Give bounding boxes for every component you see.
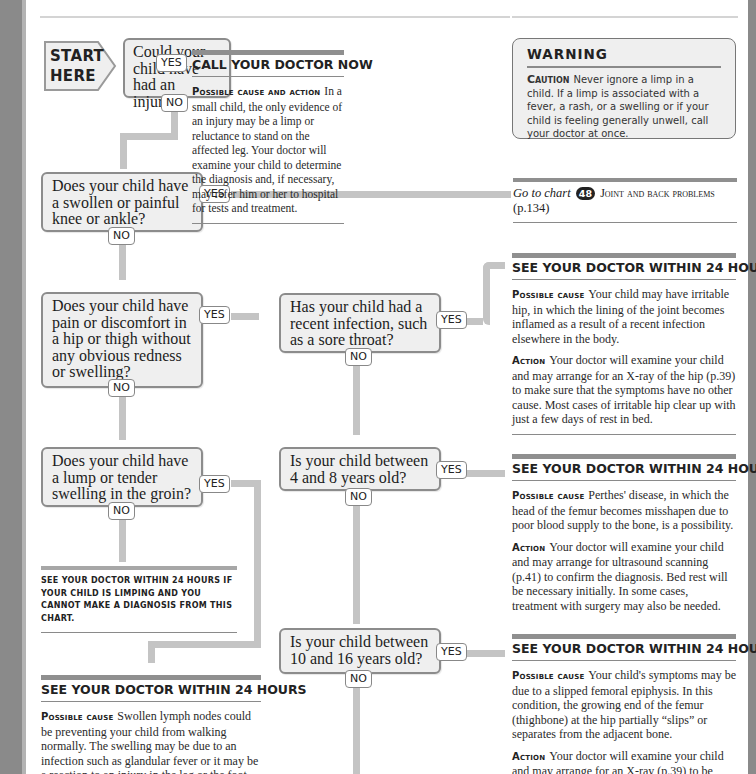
- yes-button-injury[interactable]: YES: [156, 54, 187, 72]
- goto-bar: [513, 178, 737, 182]
- result-cause: Possible causeYour child's symptoms may …: [512, 668, 736, 742]
- result-cause: Possible causeSwollen lymph nodes could …: [41, 709, 261, 774]
- yes-button-groin-lump[interactable]: YES: [199, 475, 230, 493]
- page-edge-left: [0, 0, 26, 774]
- no-button-groin-lump[interactable]: NO: [108, 502, 135, 520]
- warning-body: CautionNever ignore a limp in a child. I…: [527, 73, 721, 141]
- warning-title: WARNING: [527, 45, 721, 68]
- question-age-4-8: Is your child between 4 and 8 years old?: [279, 447, 441, 491]
- chart-title: Joint and back problems: [600, 186, 715, 200]
- result-bar: [192, 50, 344, 55]
- no-button-age-10-16[interactable]: NO: [345, 670, 372, 688]
- yes-button-age-4-8[interactable]: YES: [436, 461, 467, 479]
- question-text: Is your child between 4 and 8 years old?: [290, 452, 428, 486]
- action-label: Action: [512, 542, 545, 553]
- action-label: Action: [512, 751, 545, 762]
- question-recent-infection: Has your child had a recent infection, s…: [279, 293, 441, 353]
- top-divider: [40, 16, 510, 18]
- result-end-rule: [192, 223, 344, 224]
- page-edge-right: [748, 0, 756, 774]
- result-cause: Possible causePerthes' disease, in which…: [512, 488, 736, 533]
- goto-prefix: Go to chart: [513, 186, 571, 200]
- question-text: Is your child between 10 and 16 years ol…: [290, 633, 428, 667]
- result-label: Possible cause and action: [192, 86, 320, 97]
- result-paragraph: Possible cause and actionIn a small chil…: [192, 84, 344, 216]
- question-groin-lump: Does your child have a lump or tender sw…: [41, 447, 203, 507]
- yes-button-recent-infection[interactable]: YES: [436, 311, 467, 329]
- result-action: ActionYour doctor will examine your chil…: [512, 353, 736, 427]
- cause-label: Possible cause: [512, 289, 584, 300]
- result-heading: SEE YOUR DOCTOR WITHIN 24 HOURS: [512, 260, 736, 280]
- result-slipped-femoral-epiphysis: SEE YOUR DOCTOR WITHIN 24 HOURS Possible…: [512, 634, 736, 774]
- chart-number-badge: 48: [576, 187, 595, 200]
- action-label: Action: [512, 355, 545, 366]
- result-cause: Possible causeYour child may have irrita…: [512, 287, 736, 346]
- result-heading: SEE YOUR DOCTOR WITHIN 24 HOURS: [512, 461, 736, 481]
- start-here-label: STARTHERE: [50, 46, 104, 86]
- yes-button-hip-pain[interactable]: YES: [199, 306, 230, 324]
- warning-box: WARNING CautionNever ignore a limp in a …: [512, 38, 736, 139]
- cause-label: Possible cause: [512, 490, 584, 501]
- note-text: See your doctor within 24 hours if your …: [41, 575, 237, 625]
- cause-label: Possible cause: [41, 711, 113, 722]
- no-button-swollen-knee[interactable]: NO: [108, 227, 135, 245]
- yes-button-age-10-16[interactable]: YES: [436, 643, 467, 661]
- warning-label: Caution: [527, 73, 569, 86]
- result-perthes: SEE YOUR DOCTOR WITHIN 24 HOURS Possible…: [512, 454, 736, 620]
- result-irritable-hip: SEE YOUR DOCTOR WITHIN 24 HOURS Possible…: [512, 253, 736, 435]
- no-button-recent-infection[interactable]: NO: [345, 348, 372, 366]
- goto-end-rule: [513, 222, 737, 223]
- question-hip-pain: Does your child have pain or discomfort …: [41, 292, 203, 388]
- no-diagnosis-note: See your doctor within 24 hours if your …: [41, 566, 237, 633]
- no-button-hip-pain[interactable]: NO: [108, 379, 135, 397]
- result-heading: CALL YOUR DOCTOR NOW: [192, 57, 344, 77]
- note-bar: [41, 566, 237, 570]
- question-age-10-16: Is your child between 10 and 16 years ol…: [279, 628, 441, 674]
- result-action: ActionYour doctor will examine your chil…: [512, 749, 736, 774]
- no-button-age-4-8[interactable]: NO: [345, 488, 372, 506]
- goto-chart-link[interactable]: Go to chart 48 Joint and back problems (…: [513, 178, 737, 223]
- result-lymph-nodes: SEE YOUR DOCTOR WITHIN 24 HOURS Possible…: [41, 675, 261, 774]
- result-call-doctor-now: CALL YOUR DOCTOR NOW Possible cause and …: [192, 50, 344, 224]
- result-bar: [512, 253, 736, 258]
- note-end-rule: [41, 632, 237, 633]
- start-here-tag: STARTHERE: [42, 40, 114, 90]
- top-divider-right: [512, 16, 738, 18]
- action-text: Your doctor will examine your child and …: [512, 353, 736, 426]
- result-action: ActionYour doctor will examine your chil…: [512, 540, 736, 614]
- question-text: Does your child have a lump or tender sw…: [52, 452, 191, 502]
- result-bar: [512, 454, 736, 459]
- result-end-rule: [512, 434, 736, 435]
- cause-label: Possible cause: [512, 670, 584, 681]
- result-bar: [41, 675, 261, 680]
- no-button-injury[interactable]: NO: [161, 94, 188, 112]
- result-heading: SEE YOUR DOCTOR WITHIN 24 HOURS: [41, 682, 261, 702]
- question-text: Does your child have a swollen or painfu…: [52, 177, 188, 227]
- goto-text: Go to chart 48 Joint and back problems (…: [513, 186, 737, 216]
- result-bar: [512, 634, 736, 639]
- result-text: In a small child, the only evidence of a…: [192, 85, 342, 214]
- question-text: Has your child had a recent infection, s…: [290, 298, 427, 348]
- question-text: Does your child have pain or discomfort …: [52, 297, 191, 380]
- result-heading: SEE YOUR DOCTOR WITHIN 24 HOURS: [512, 641, 736, 661]
- question-swollen-knee: Does your child have a swollen or painfu…: [41, 172, 203, 232]
- chart-page-ref: (p.134): [513, 201, 549, 215]
